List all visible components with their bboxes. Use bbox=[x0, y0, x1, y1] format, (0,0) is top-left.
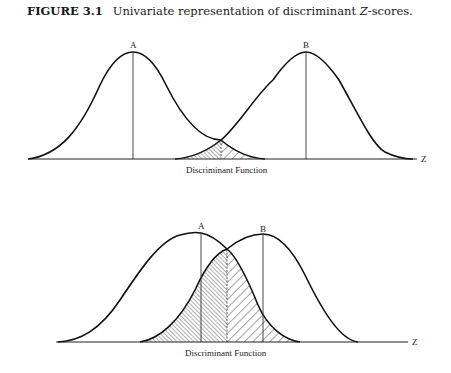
x-axis-label: Discriminant Function bbox=[186, 165, 268, 175]
axis-end-label-z: Z bbox=[412, 337, 418, 347]
overlap-hatch-left bbox=[140, 249, 227, 342]
figure-canvas: A B Z Discriminant Function A B Z Discri… bbox=[0, 0, 451, 373]
label-b: B bbox=[303, 40, 309, 50]
label-a: A bbox=[130, 40, 137, 50]
chart-top: A B Z Discriminant Function bbox=[28, 40, 427, 175]
chart-bottom: A B Z Discriminant Function bbox=[56, 221, 418, 358]
curve-a bbox=[28, 52, 265, 159]
label-a: A bbox=[198, 221, 205, 231]
curve-b bbox=[175, 52, 413, 159]
x-axis-label: Discriminant Function bbox=[185, 348, 267, 358]
label-b: B bbox=[260, 224, 266, 234]
axis-end-label-z: Z bbox=[421, 154, 427, 164]
overlap-hatch-left bbox=[175, 140, 221, 159]
overlap-hatch-right bbox=[221, 140, 265, 159]
